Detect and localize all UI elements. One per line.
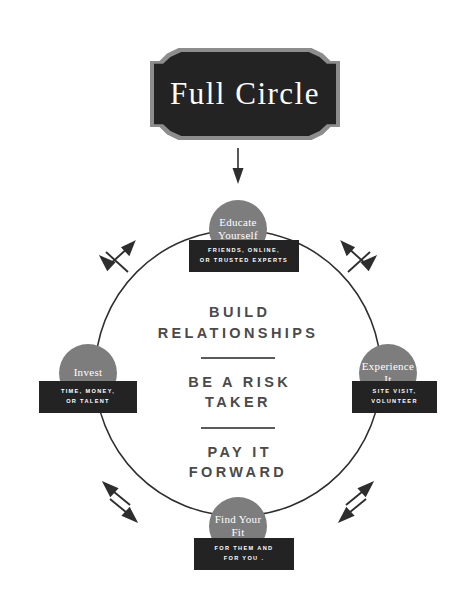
bottom-left-arrows — [104, 483, 136, 521]
node-label: Invest — [72, 366, 105, 379]
caption-educate-yourself: FRIENDS, ONLINE, OR TRUSTED EXPERTS — [189, 240, 299, 272]
down-arrow-icon — [233, 148, 244, 184]
node-label: Find Your Fit — [209, 513, 267, 540]
bottom-right-arrows — [340, 483, 372, 521]
center-divider-2 — [201, 427, 275, 429]
caption-invest: TIME, MONEY, OR TALENT — [39, 381, 137, 413]
center-line-pay-it-forward: PAY IT FORWARD — [138, 442, 338, 483]
top-left-arrows — [101, 242, 134, 272]
center-divider-1 — [201, 357, 275, 359]
center-text-block: BUILD RELATIONSHIPS BE A RISK TAKER PAY … — [138, 302, 338, 483]
node-label: Educate Yourself — [209, 216, 267, 243]
poster-canvas: Full Circle — [0, 0, 476, 597]
center-line-build-relationships: BUILD RELATIONSHIPS — [138, 302, 338, 343]
caption-find-your-fit: FOR THEM AND FOR YOU . — [194, 538, 294, 570]
top-right-arrows — [342, 242, 375, 272]
caption-experience-it: SITE VISIT, VOLUNTEER — [352, 381, 437, 413]
center-line-be-a-risk-taker: BE A RISK TAKER — [138, 372, 338, 413]
